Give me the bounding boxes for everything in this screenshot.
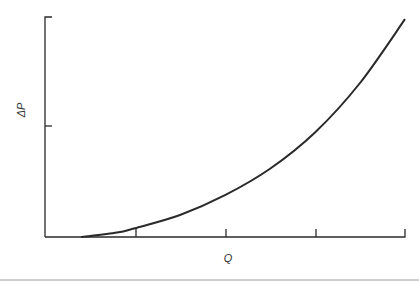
data-curve	[81, 19, 405, 237]
y-axis	[45, 17, 52, 237]
y-axis-label: ΔP	[15, 102, 27, 118]
bottom-divider	[0, 279, 419, 281]
x-axis-label: Q	[224, 252, 233, 264]
chart: Q ΔP	[0, 0, 419, 282]
